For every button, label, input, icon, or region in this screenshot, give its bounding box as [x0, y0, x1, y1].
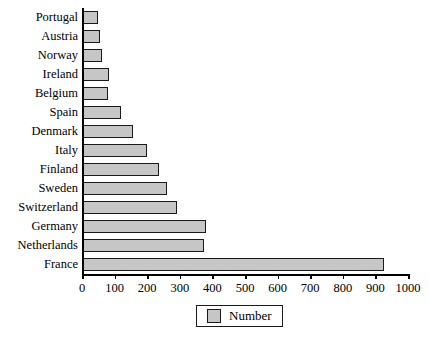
x-tick-300: [180, 274, 182, 279]
bar-italy: [82, 144, 147, 157]
x-tick-label-200: 200: [138, 281, 157, 295]
x-tick-label-0: 0: [79, 281, 85, 295]
bar-fill: [82, 201, 177, 214]
bar-fill: [82, 144, 147, 157]
y-axis-label-austria: Austria: [0, 30, 78, 43]
bar-fill: [82, 182, 167, 195]
bar-fill: [82, 87, 108, 100]
bar-fill: [82, 239, 204, 252]
bar-portugal: [82, 11, 98, 24]
x-tick-600: [278, 274, 280, 279]
x-tick-500: [245, 274, 247, 279]
legend-swatch-number: [207, 309, 221, 323]
bar-fill: [82, 11, 98, 24]
y-axis-label-norway: Norway: [0, 49, 78, 62]
bar-netherlands: [82, 239, 204, 252]
y-axis-label-finland: Finland: [0, 163, 78, 176]
y-axis-label-sweden: Sweden: [0, 182, 78, 195]
bar-sweden: [82, 182, 167, 195]
x-tick-label-900: 900: [366, 281, 385, 295]
y-axis-label-netherlands: Netherlands: [0, 239, 78, 252]
bar-norway: [82, 49, 102, 62]
x-tick-800: [343, 274, 345, 279]
x-tick-label-600: 600: [268, 281, 287, 295]
bar-belgium: [82, 87, 108, 100]
x-tick-label-700: 700: [301, 281, 320, 295]
x-tick-label-500: 500: [236, 281, 255, 295]
x-tick-900: [375, 274, 377, 279]
bar-switzerland: [82, 201, 177, 214]
bar-fill: [82, 49, 102, 62]
x-tick-400: [212, 274, 214, 279]
x-tick-label-400: 400: [203, 281, 222, 295]
x-tick-1000: [408, 274, 410, 279]
y-axis-label-france: France: [0, 258, 78, 271]
bar-fill: [82, 68, 109, 81]
bar-fill: [82, 106, 121, 119]
bar-chart: PortugalAustriaNorwayIrelandBelgiumSpain…: [0, 0, 429, 341]
bar-fill: [82, 125, 133, 138]
bar-denmark: [82, 125, 133, 138]
bar-fill: [82, 30, 100, 43]
y-axis-labels: PortugalAustriaNorwayIrelandBelgiumSpain…: [0, 8, 78, 274]
x-tick-label-300: 300: [170, 281, 189, 295]
y-axis-label-ireland: Ireland: [0, 68, 78, 81]
y-axis-label-belgium: Belgium: [0, 87, 78, 100]
y-axis-label-portugal: Portugal: [0, 11, 78, 24]
bar-spain: [82, 106, 121, 119]
y-axis-label-switzerland: Switzerland: [0, 201, 78, 214]
x-tick-0: [82, 274, 84, 279]
bar-austria: [82, 30, 100, 43]
plot-area: [82, 8, 408, 274]
bar-finland: [82, 163, 159, 176]
bar-ireland: [82, 68, 109, 81]
bar-fill: [82, 258, 384, 271]
bar-fill: [82, 220, 206, 233]
y-axis-line: [82, 8, 84, 274]
x-tick-label-1000: 1000: [396, 281, 421, 295]
legend-label-number: Number: [229, 309, 272, 323]
y-axis-label-italy: Italy: [0, 144, 78, 157]
bar-germany: [82, 220, 206, 233]
bar-france: [82, 258, 384, 271]
y-axis-label-germany: Germany: [0, 220, 78, 233]
x-tick-label-100: 100: [105, 281, 124, 295]
bar-fill: [82, 163, 159, 176]
legend: Number: [196, 305, 283, 327]
x-tick-200: [147, 274, 149, 279]
y-axis-label-denmark: Denmark: [0, 125, 78, 138]
y-axis-label-spain: Spain: [0, 106, 78, 119]
x-tick-100: [115, 274, 117, 279]
x-tick-700: [310, 274, 312, 279]
x-tick-label-800: 800: [333, 281, 352, 295]
